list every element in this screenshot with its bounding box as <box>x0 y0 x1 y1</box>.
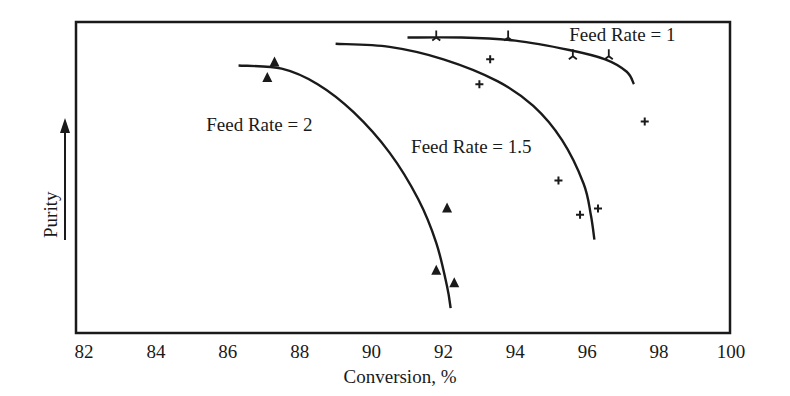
plus-marker-icon <box>594 205 602 213</box>
x-tick-label: 84 <box>146 341 166 362</box>
triangle-marker-icon <box>449 277 459 287</box>
x-tick-label: 98 <box>650 341 669 362</box>
plot-frame <box>76 22 730 333</box>
tick-marker-icon <box>432 31 440 41</box>
curve-series-0 <box>239 66 451 309</box>
x-tick-label: 92 <box>434 341 453 362</box>
triangle-marker-icon <box>442 203 452 213</box>
curve-labels: Feed Rate = 1Feed Rate = 1.5Feed Rate = … <box>206 24 675 157</box>
curve-label: Feed Rate = 1 <box>569 24 675 45</box>
plus-marker-icon <box>641 118 649 126</box>
x-tick-label: 90 <box>362 341 381 362</box>
x-axis-title: Conversion, % <box>344 366 457 387</box>
x-tick-label: 100 <box>717 341 746 362</box>
data-markers <box>262 31 648 288</box>
x-tick-label: 86 <box>218 341 237 362</box>
triangle-marker-icon <box>431 265 441 275</box>
plus-marker-icon <box>475 80 483 88</box>
purity-conversion-chart: 828486889092949698100 Conversion, % Puri… <box>0 0 790 396</box>
plus-marker-icon <box>486 55 494 63</box>
plus-marker-icon <box>554 177 562 185</box>
x-tick-label: 88 <box>290 341 309 362</box>
curve-label: Feed Rate = 1.5 <box>411 136 531 157</box>
triangle-marker-icon <box>262 72 272 82</box>
x-tick-label: 82 <box>75 341 94 362</box>
tick-marker-icon <box>605 49 613 59</box>
x-tick-label: 96 <box>578 341 597 362</box>
x-tick-label: 94 <box>506 341 526 362</box>
up-arrow-icon <box>60 118 70 133</box>
plus-marker-icon <box>576 211 584 219</box>
y-axis-title: Purity <box>40 191 61 238</box>
y-axis-title-group: Purity <box>40 118 70 240</box>
triangle-marker-icon <box>270 56 280 66</box>
x-axis-tick-labels: 828486889092949698100 <box>75 341 746 362</box>
curve-label: Feed Rate = 2 <box>206 114 312 135</box>
